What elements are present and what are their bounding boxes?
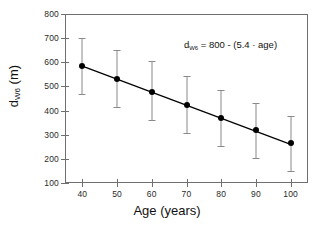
error-bar-cap-lower xyxy=(218,146,225,147)
y-axis-tick-inner xyxy=(65,159,69,160)
error-bar-cap-upper xyxy=(79,38,86,39)
x-axis-tick-label: 70 xyxy=(182,189,192,199)
error-bar-cap-lower xyxy=(252,158,259,159)
error-bar-cap-upper xyxy=(252,103,259,104)
error-bar-cap-lower xyxy=(148,120,155,121)
data-point-marker xyxy=(184,102,190,108)
x-axis-tick xyxy=(82,183,83,187)
y-axis-tick-inner xyxy=(65,183,69,184)
data-point-marker xyxy=(218,115,224,121)
x-axis-tick-inner xyxy=(152,179,153,183)
error-bar-cap-lower xyxy=(79,94,86,95)
x-axis-tick-label: 100 xyxy=(283,189,298,199)
x-axis-tick xyxy=(291,183,292,187)
x-axis-tick-label: 60 xyxy=(147,189,157,199)
regression-equation-annotation: dW6 = 800 - (5.4 · age) xyxy=(184,39,277,51)
y-axis-tick-label: 700 xyxy=(44,33,59,43)
y-axis-tick-label: 300 xyxy=(44,130,59,140)
error-bar-cap-upper xyxy=(148,61,155,62)
x-axis-tick xyxy=(187,183,188,187)
chart-figure: 100200300400500600700800 405060708090100… xyxy=(0,0,334,230)
y-axis-title-main: d xyxy=(6,100,21,107)
error-bar-cap-lower xyxy=(114,107,121,108)
x-axis-tick-inner xyxy=(187,179,188,183)
x-axis-tick xyxy=(152,183,153,187)
y-axis-tick-inner xyxy=(65,38,69,39)
error-bar-cap-lower xyxy=(287,171,294,172)
y-axis-tick-label: 200 xyxy=(44,154,59,164)
x-axis-tick xyxy=(117,183,118,187)
error-bar-cap-upper xyxy=(183,76,190,77)
x-axis-tick-inner xyxy=(291,179,292,183)
y-axis-tick-inner xyxy=(65,14,69,15)
error-bar-cap-upper xyxy=(114,50,121,51)
x-axis-tick-inner xyxy=(221,179,222,183)
x-axis-tick-label: 40 xyxy=(77,189,87,199)
y-axis-tick-label: 600 xyxy=(44,57,59,67)
y-axis-tick-inner xyxy=(65,62,69,63)
x-axis-tick-label: 80 xyxy=(216,189,226,199)
y-axis-tick-inner xyxy=(65,135,69,136)
y-axis-tick-inner xyxy=(65,111,69,112)
data-point-marker xyxy=(114,76,120,82)
data-point-marker xyxy=(253,127,259,133)
y-axis-tick-label: 500 xyxy=(44,81,59,91)
x-axis-tick-inner xyxy=(117,179,118,183)
x-axis-tick xyxy=(221,183,222,187)
equation-subscript: W6 xyxy=(189,45,198,51)
x-axis-tick-inner xyxy=(256,179,257,183)
equation-suffix: = 800 - (5.4 · age) xyxy=(198,39,277,50)
y-axis-title-subscript: W6 xyxy=(13,88,22,100)
data-point-marker xyxy=(288,140,294,146)
data-point-marker xyxy=(149,89,155,95)
data-point-marker xyxy=(79,63,85,69)
y-axis-tick-label: 800 xyxy=(44,9,59,19)
x-axis-tick-inner xyxy=(82,179,83,183)
x-axis-tick-label: 50 xyxy=(112,189,122,199)
error-bar-cap-upper xyxy=(218,90,225,91)
x-axis-tick xyxy=(256,183,257,187)
x-axis-tick-label: 90 xyxy=(251,189,261,199)
y-axis-tick-inner xyxy=(65,86,69,87)
error-bar-cap-lower xyxy=(183,133,190,134)
y-axis-title-unit: (m) xyxy=(6,65,21,88)
error-bar-cap-upper xyxy=(287,116,294,117)
y-axis-title: dW6 (m) xyxy=(6,16,22,156)
y-axis-tick-label: 400 xyxy=(44,106,59,116)
y-axis-tick-label: 100 xyxy=(44,178,59,188)
x-axis-title: Age (years) xyxy=(0,203,334,218)
